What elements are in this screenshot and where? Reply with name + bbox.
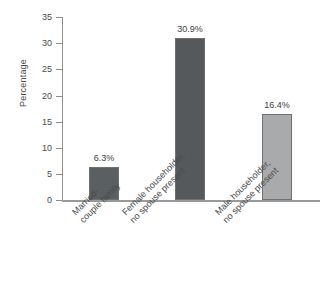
y-tick-30 xyxy=(56,43,62,44)
y-axis-title: Percentage xyxy=(18,38,28,128)
y-tick-label-0: 0 xyxy=(28,196,52,205)
y-tick-label-5: 5 xyxy=(28,170,52,179)
y-tick-5 xyxy=(56,174,62,175)
y-tick-label-30: 30 xyxy=(28,39,52,48)
y-tick-label-20: 20 xyxy=(28,92,52,101)
y-tick-20 xyxy=(56,96,62,97)
y-tick-label-25: 25 xyxy=(28,65,52,74)
y-tick-label-35: 35 xyxy=(28,13,52,22)
y-tick-15 xyxy=(56,122,62,123)
bar-value-label-2: 16.4% xyxy=(252,101,302,110)
bar-value-label-1: 30.9% xyxy=(165,25,215,34)
y-tick-label-10: 10 xyxy=(28,144,52,153)
y-axis-line xyxy=(62,17,63,201)
y-tick-label-15: 15 xyxy=(28,118,52,127)
bar-chart: Percentage 0 5 10 15 20 25 30 35 6.3% 30… xyxy=(0,0,334,287)
y-tick-10 xyxy=(56,148,62,149)
y-tick-25 xyxy=(56,69,62,70)
bar-value-label-0: 6.3% xyxy=(79,154,129,163)
y-tick-35 xyxy=(56,17,62,18)
